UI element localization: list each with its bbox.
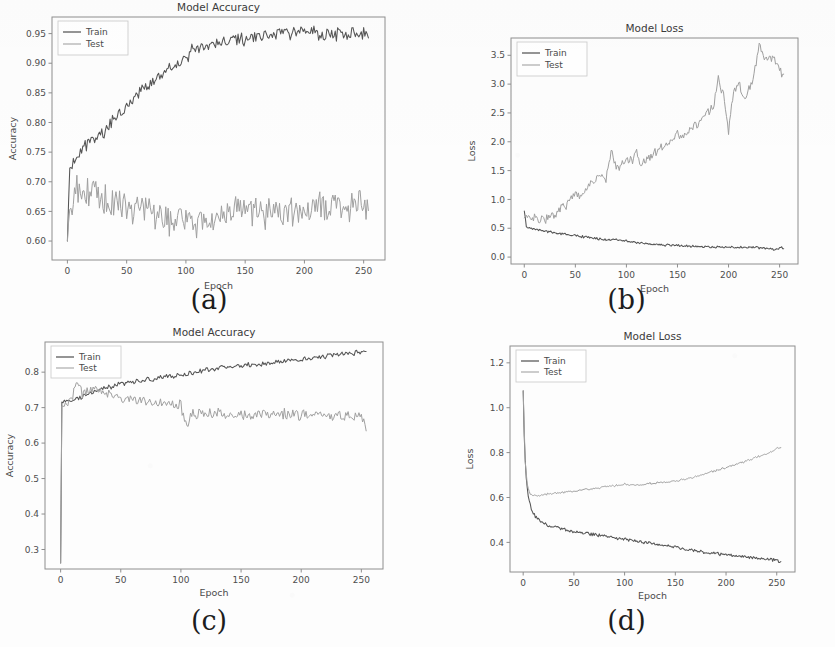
chart-legend: TrainTest	[51, 346, 121, 378]
series-line-train	[67, 26, 368, 241]
legend-label-test: Test	[85, 39, 104, 49]
chart-legend: TrainTest	[58, 21, 128, 55]
panel-caption-a: (a)	[0, 284, 418, 315]
panel-caption-c: (c)	[0, 605, 418, 636]
y-tick-label: 0.95	[26, 29, 46, 39]
x-tick-label: 200	[296, 266, 313, 276]
panel-b: Model Loss0501001502002500.00.51.01.52.0…	[418, 0, 835, 324]
x-tick-label: 200	[720, 270, 737, 280]
y-axis-label: Accuracy	[4, 433, 15, 477]
x-axis-label: Epoch	[199, 587, 228, 598]
series-line-test	[523, 391, 781, 496]
x-tick-label: 250	[768, 578, 785, 588]
x-axis-label: Epoch	[638, 590, 667, 601]
legend-label-train: Train	[543, 356, 566, 366]
series-line-train	[523, 391, 781, 563]
x-tick-label: 250	[355, 266, 372, 276]
y-tick-label: 1.0	[491, 195, 506, 205]
y-tick-label: 0.75	[26, 147, 46, 157]
y-tick-label: 0.80	[26, 118, 46, 128]
y-tick-label: 0.0	[491, 252, 506, 262]
y-tick-label: 0.4	[25, 509, 40, 519]
legend-label-test: Test	[78, 363, 97, 373]
x-tick-label: 100	[618, 270, 635, 280]
x-tick-label: 100	[177, 266, 194, 276]
x-tick-label: 0	[58, 575, 64, 585]
x-tick-label: 50	[115, 575, 127, 585]
chart-b: Model Loss0501001502002500.00.51.01.52.0…	[418, 0, 835, 324]
y-tick-label: 2.5	[491, 108, 505, 118]
chart-title: Model Accuracy	[173, 326, 256, 338]
y-axis-label: Loss	[466, 141, 477, 162]
chart-legend: TrainTest	[517, 42, 587, 76]
x-tick-label: 250	[353, 575, 370, 585]
x-tick-label: 100	[616, 578, 633, 588]
series-line-train	[61, 350, 367, 563]
y-tick-label: 0.60	[26, 236, 46, 246]
chart-title: Model Loss	[626, 22, 684, 34]
x-tick-label: 200	[717, 578, 734, 588]
panel-c: Model Accuracy0501001502002500.30.40.50.…	[0, 324, 418, 647]
y-tick-label: 0.6	[25, 438, 40, 448]
y-tick-label: 0.4	[490, 538, 505, 548]
y-tick-label: 0.5	[491, 223, 505, 233]
panel-caption-d: (d)	[418, 605, 835, 636]
chart-c: Model Accuracy0501001502002500.30.40.50.…	[0, 324, 418, 647]
panel-caption-b: (b)	[418, 284, 835, 315]
y-tick-label: 2.0	[491, 137, 506, 147]
legend-label-train: Train	[78, 352, 101, 362]
y-tick-label: 3.5	[491, 50, 505, 60]
y-tick-label: 0.6	[490, 493, 505, 503]
panel-d: Model Loss0501001502002500.40.60.81.01.2…	[418, 324, 835, 647]
y-axis-label: Accuracy	[7, 116, 18, 160]
x-tick-label: 150	[669, 270, 686, 280]
chart-a: Model Accuracy0501001502002500.600.650.7…	[0, 0, 418, 324]
x-tick-label: 50	[121, 266, 133, 276]
y-tick-label: 0.90	[26, 58, 46, 68]
x-tick-label: 50	[568, 578, 580, 588]
x-tick-label: 0	[521, 270, 527, 280]
chart-legend: TrainTest	[516, 350, 586, 382]
y-tick-label: 0.8	[490, 448, 505, 458]
legend-label-train: Train	[544, 48, 567, 58]
x-tick-label: 100	[172, 575, 189, 585]
x-tick-label: 0	[65, 266, 71, 276]
x-tick-label: 250	[771, 270, 788, 280]
series-line-train	[524, 211, 783, 250]
y-tick-label: 1.0	[490, 403, 505, 413]
y-axis-label: Loss	[464, 449, 475, 470]
series-line-test	[61, 383, 367, 563]
y-tick-label: 3.0	[491, 79, 506, 89]
chart-d: Model Loss0501001502002500.40.60.81.01.2…	[418, 324, 835, 647]
series-line-test	[67, 175, 368, 241]
chart-title: Model Loss	[624, 330, 682, 342]
legend-label-test: Test	[544, 60, 563, 70]
y-tick-label: 0.3	[25, 545, 39, 555]
figure-grid: Model Accuracy0501001502002500.600.650.7…	[0, 0, 835, 647]
chart-title: Model Accuracy	[177, 1, 260, 13]
x-tick-label: 150	[237, 266, 254, 276]
x-tick-label: 0	[520, 578, 526, 588]
panel-a: Model Accuracy0501001502002500.600.650.7…	[0, 0, 418, 324]
y-tick-label: 0.8	[25, 367, 40, 377]
x-tick-label: 150	[667, 578, 684, 588]
y-tick-label: 0.65	[26, 207, 46, 217]
y-tick-label: 0.7	[25, 403, 39, 413]
y-tick-label: 0.85	[26, 88, 46, 98]
x-tick-label: 200	[293, 575, 310, 585]
x-tick-label: 50	[570, 270, 582, 280]
y-tick-label: 0.5	[25, 474, 39, 484]
y-tick-label: 0.70	[26, 177, 46, 187]
legend-label-train: Train	[85, 27, 108, 37]
legend-label-test: Test	[543, 367, 562, 377]
y-tick-label: 1.5	[491, 166, 505, 176]
y-tick-label: 1.2	[490, 358, 504, 368]
x-tick-label: 150	[232, 575, 249, 585]
